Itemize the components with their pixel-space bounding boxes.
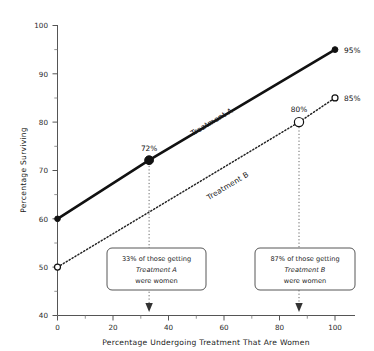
marker-b-85: [332, 95, 338, 101]
x-tick-label-20: 20: [108, 323, 118, 332]
y-tick-label-70: 70: [39, 166, 49, 175]
marker-a-95: [332, 47, 338, 53]
x-tick-label-100: 100: [328, 323, 342, 332]
marker-a-start: [55, 216, 61, 222]
x-tick-label-80: 80: [275, 323, 285, 332]
marker-b-80: [294, 118, 303, 127]
callout-b-line3: were women: [284, 277, 326, 285]
callout-a-line3: were women: [135, 277, 177, 285]
callout-b-line2: Treatment B: [285, 266, 326, 274]
x-tick-label-60: 60: [219, 323, 229, 332]
marker-a-72: [145, 156, 154, 165]
point-label-85: 85%: [344, 94, 360, 103]
callout-a-line2: Treatment A: [136, 266, 177, 274]
point-label-72: 72%: [141, 144, 157, 153]
marker-b-start: [55, 264, 61, 270]
x-axis-title: Percentage Undergoing Treatment That Are…: [102, 338, 309, 347]
y-tick-label-50: 50: [39, 263, 49, 272]
point-label-95: 95%: [344, 46, 360, 55]
y-tick-label-80: 80: [39, 118, 49, 127]
y-tick-label-40: 40: [39, 311, 49, 320]
callout-a-line1: 33% of those getting: [122, 255, 191, 263]
callout-b-line1: 87% of those getting: [270, 255, 339, 263]
y-tick-label-60: 60: [39, 215, 49, 224]
line-chart: 100 90 80 70 60 50 40 0 20 40 60 80 100: [0, 0, 374, 351]
callout-treatment-a: 33% of those getting Treatment A were wo…: [107, 248, 206, 290]
x-tick-label-0: 0: [55, 323, 60, 332]
y-tick-label-100: 100: [34, 21, 48, 30]
chart-background: [0, 0, 374, 351]
x-tick-label-40: 40: [164, 323, 174, 332]
chart-container: 100 90 80 70 60 50 40 0 20 40 60 80 100: [0, 0, 374, 351]
callout-treatment-b: 87% of those getting Treatment B were wo…: [255, 248, 355, 290]
point-label-80: 80%: [291, 105, 307, 114]
y-axis-title: Percentage Surviving: [19, 127, 28, 213]
y-tick-label-90: 90: [39, 70, 49, 79]
